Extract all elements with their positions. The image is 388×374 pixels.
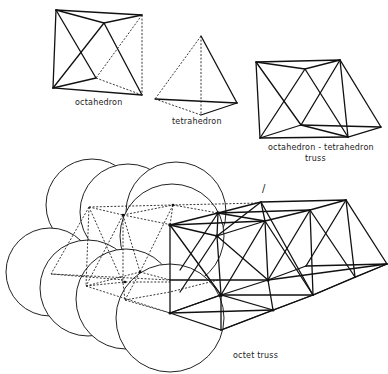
octahedron-figure — [53, 10, 142, 95]
label-octet-truss: octet truss — [233, 351, 278, 360]
label-oct-tet-truss-line2: truss — [305, 154, 326, 163]
sphere-packing — [6, 159, 226, 372]
tick-marker: / — [262, 183, 266, 194]
tetrahedron-figure — [155, 36, 237, 115]
oct-tet-truss-figure — [256, 60, 381, 138]
label-octahedron: octahedron — [75, 98, 122, 107]
diagram-canvas: octahedron tetrahedron octahedron - tetr… — [0, 0, 388, 374]
label-oct-tet-truss: octahedron - tetrahedron — [268, 143, 374, 152]
geometry-drawing — [0, 0, 388, 374]
label-tetrahedron: tetrahedron — [172, 117, 222, 126]
